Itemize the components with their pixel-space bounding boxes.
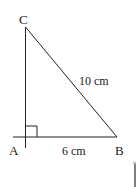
vertex-label-c: C xyxy=(19,12,28,27)
side-label-bc: 10 cm xyxy=(79,74,109,88)
side-label-ab: 6 cm xyxy=(62,144,86,158)
triangle-diagram: C A B 6 cm 10 cm xyxy=(0,0,138,187)
vertex-label-a: A xyxy=(9,143,19,158)
vertex-label-b: B xyxy=(115,143,124,158)
right-angle-marker xyxy=(26,126,38,137)
